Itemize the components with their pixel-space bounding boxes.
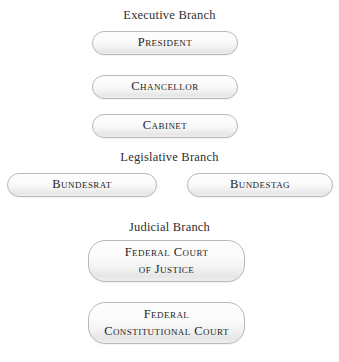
node-federal-court-of-justice[interactable]: Federal Court of Justice (88, 240, 245, 282)
node-chancellor[interactable]: Chancellor (92, 75, 238, 99)
government-branches-diagram: Executive Branch President Chancellor Ca… (0, 0, 339, 362)
node-bundestag[interactable]: Bundestag (187, 173, 333, 197)
node-federal-constitutional-court[interactable]: Federal Constitutional Court (88, 302, 245, 344)
section-heading-executive: Executive Branch (0, 8, 339, 23)
section-heading-legislative: Legislative Branch (0, 150, 339, 165)
node-cabinet[interactable]: Cabinet (92, 114, 238, 138)
node-bundesrat-label: Bundesrat (52, 177, 111, 192)
node-bundestag-label: Bundestag (230, 177, 290, 192)
node-president[interactable]: President (92, 31, 238, 55)
node-federal-court-of-justice-label: Federal Court of Justice (125, 244, 209, 278)
node-president-label: President (138, 35, 193, 50)
node-cabinet-label: Cabinet (143, 118, 187, 133)
node-bundesrat[interactable]: Bundesrat (7, 173, 157, 197)
node-chancellor-label: Chancellor (131, 79, 198, 94)
node-federal-constitutional-court-label: Federal Constitutional Court (104, 306, 229, 340)
section-heading-judicial: Judicial Branch (0, 220, 339, 235)
